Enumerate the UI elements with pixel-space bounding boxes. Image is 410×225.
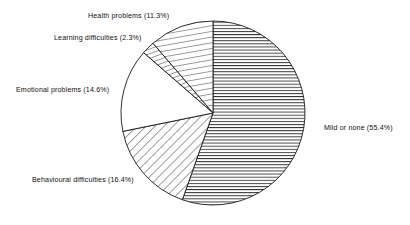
pie-chart-figure: Health problems (11.3%) Learning difficu… — [0, 0, 410, 225]
slice-label-emotional-problems: Emotional problems (14.6%) — [16, 86, 109, 95]
slice-label-health-problems: Health problems (11.3%) — [88, 12, 169, 21]
pie-slices — [121, 21, 305, 205]
slice-label-behavioural-difficulties: Behavioural difficulties (16.4%) — [32, 176, 134, 185]
slice-label-learning-difficulties: Learning difficulties (2.3%) — [54, 34, 141, 43]
slice-label-mild-or-none: Mild or none (55.4%) — [324, 124, 393, 133]
